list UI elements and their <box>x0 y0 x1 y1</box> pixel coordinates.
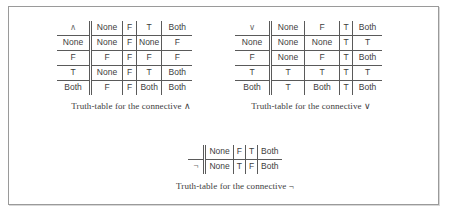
column-header-cell: None <box>91 21 123 36</box>
table-row: ¬ None T F Both <box>188 160 281 175</box>
column-header-cell: Both <box>162 21 193 36</box>
row-header-cell: T <box>57 66 91 81</box>
column-header-cell: F <box>305 21 340 36</box>
table-cell: F <box>91 51 123 66</box>
column-header-cell: F <box>123 21 137 36</box>
connective-symbol-cell: ∨ <box>235 21 271 36</box>
column-header-cell: T <box>245 145 257 160</box>
table-cell: T <box>340 36 353 51</box>
negation-table-block: None F T Both ¬ None T F Both Truth-tabl… <box>141 145 329 191</box>
column-header-cell: None <box>205 145 233 160</box>
table-cell: None <box>91 36 123 51</box>
negation-truth-table: None F T Both ¬ None T F Both <box>188 145 281 174</box>
table-cell: None <box>91 66 123 81</box>
table-cell: F <box>123 66 137 81</box>
table-cell: None <box>205 160 233 175</box>
row-header-cell: Both <box>57 81 91 96</box>
table-cell: None <box>271 36 305 51</box>
table-cell: None <box>271 51 305 66</box>
row-header-cell: None <box>235 36 271 51</box>
row-header-cell: F <box>235 51 271 66</box>
row-header-cell: Both <box>235 81 271 96</box>
table-row: T None F T Both <box>57 66 192 81</box>
row-header-cell: F <box>57 51 91 66</box>
column-header-cell: T <box>340 21 353 36</box>
column-header-cell: F <box>233 145 245 160</box>
table-cell: F <box>123 51 137 66</box>
conjunction-table-block: ∧ None F T Both None None F None F F F F <box>57 21 205 111</box>
table-cell: T <box>137 66 162 81</box>
table-row: None None None T T <box>235 36 382 51</box>
column-header-cell: Both <box>353 21 383 36</box>
table-row: F F F F F <box>57 51 192 66</box>
table-cell: T <box>340 51 353 66</box>
disjunction-truth-table: ∨ None F T Both None None None T T F Non… <box>235 21 382 95</box>
table-cell: None <box>137 36 162 51</box>
table-row: None None F None F <box>57 36 192 51</box>
table-cell: F <box>245 160 257 175</box>
column-header-cell: Both <box>258 145 282 160</box>
conjunction-truth-table: ∧ None F T Both None None F None F F F F <box>57 21 192 95</box>
table-row: Both F F Both Both <box>57 81 192 96</box>
disjunction-caption: Truth-table for the connective ∨ <box>235 101 387 111</box>
table-cell: Both <box>162 81 193 96</box>
table-cell: F <box>162 51 193 66</box>
table-header-row: ∨ None F T Both <box>235 21 382 36</box>
column-header-cell: T <box>137 21 162 36</box>
row-header-cell: T <box>235 66 271 81</box>
table-row: T T T T T <box>235 66 382 81</box>
table-cell: T <box>353 66 383 81</box>
conjunction-caption: Truth-table for the connective ∧ <box>57 101 205 111</box>
disjunction-table-block: ∨ None F T Both None None None T T F Non… <box>235 21 387 111</box>
table-header-row: ∧ None F T Both <box>57 21 192 36</box>
table-cell: T <box>340 81 353 96</box>
table-cell: F <box>123 36 137 51</box>
table-cell: Both <box>353 81 383 96</box>
table-cell: T <box>271 66 305 81</box>
table-cell: T <box>271 81 305 96</box>
table-cell: Both <box>137 81 162 96</box>
figure-frame: ∧ None F T Both None None F None F F F F <box>8 6 439 205</box>
table-cell: Both <box>305 81 340 96</box>
negation-caption: Truth-table for the connective ¬ <box>141 181 329 191</box>
row-header-cell: None <box>57 36 91 51</box>
table-cell: T <box>340 66 353 81</box>
table-cell: Both <box>353 51 383 66</box>
table-cell: T <box>353 36 383 51</box>
table-cell: F <box>91 81 123 96</box>
table-cell: Both <box>162 66 193 81</box>
table-cell: Both <box>258 160 282 175</box>
table-cell: T <box>305 66 340 81</box>
row-header-cell: ¬ <box>188 160 205 175</box>
connective-symbol-cell: ∧ <box>57 21 91 36</box>
table-row: Both T Both T Both <box>235 81 382 96</box>
table-cell: T <box>233 160 245 175</box>
column-header-cell: None <box>271 21 305 36</box>
negation-corner-cell <box>188 145 205 160</box>
table-cell: None <box>305 36 340 51</box>
table-cell: F <box>305 51 340 66</box>
table-cell: F <box>162 36 193 51</box>
table-row: F None F T Both <box>235 51 382 66</box>
table-header-row: None F T Both <box>188 145 281 160</box>
table-cell: F <box>123 81 137 96</box>
table-cell: F <box>137 51 162 66</box>
